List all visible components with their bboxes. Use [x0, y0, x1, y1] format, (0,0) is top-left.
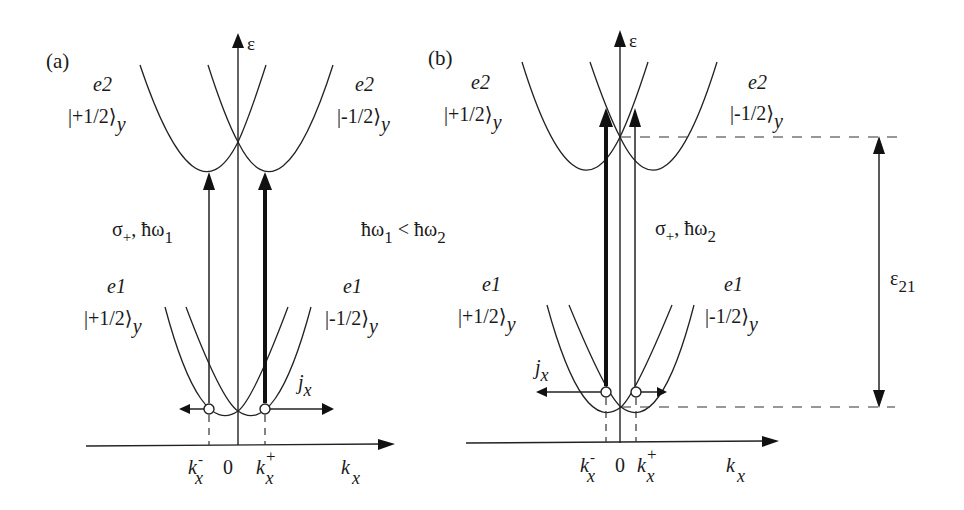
- electron-state-k-minus: [204, 404, 214, 414]
- e2-right-state-label: |-1/2⟩y: [337, 105, 390, 136]
- e2-left-state-label: |+1/2⟩y: [68, 105, 126, 136]
- panel-label-b: (b): [428, 46, 453, 70]
- e1-right-band-label: e1: [343, 275, 362, 297]
- e1-right-band-label: e1: [724, 273, 743, 295]
- current-label: jx: [295, 371, 312, 400]
- e1-left-band-label: e1: [107, 275, 126, 297]
- panel-a: (a) ε e2 |+1/2⟩y e2 |-1/2⟩y: [46, 33, 446, 488]
- k-minus-label: k-x: [580, 449, 595, 486]
- energy-axis-arrowhead-icon: [232, 33, 244, 48]
- arrowhead-right-icon: [322, 403, 334, 415]
- arrowhead-up-icon: [873, 136, 885, 154]
- energy-axis-label: ε: [247, 33, 255, 54]
- electron-state-k-plus: [631, 387, 641, 397]
- panel-b: (b) ε ε21: [428, 30, 915, 486]
- momentum-axis-arrowhead-icon: [762, 436, 779, 447]
- momentum-axis-label: kx: [341, 456, 360, 488]
- current-label: jx: [532, 356, 549, 385]
- e2-left-state-label: |+1/2⟩y: [444, 103, 502, 134]
- arrowhead-right-icon: [657, 387, 667, 397]
- arrowhead-left-icon: [536, 387, 547, 397]
- arrowhead-down-icon: [873, 390, 885, 408]
- k-plus-label: k+x: [637, 445, 656, 486]
- e1-left-state-label: |+1/2⟩y: [458, 305, 516, 336]
- e2-left-band-label: e2: [471, 71, 490, 93]
- momentum-axis-arrowhead-icon: [378, 439, 395, 450]
- panel-label-a: (a): [46, 49, 69, 73]
- arrowhead-up-icon: [203, 172, 215, 190]
- momentum-axis-label: kx: [726, 454, 745, 486]
- energy-axis-arrowhead-icon: [614, 30, 626, 47]
- gap-label: ε21: [890, 267, 915, 296]
- origin-label: 0: [223, 456, 233, 478]
- e1-right-state-label: |-1/2⟩y: [705, 305, 758, 336]
- arrowhead-up-icon: [258, 172, 272, 190]
- momentum-axis: [466, 441, 765, 443]
- e1-right-state-label: |-1/2⟩y: [325, 307, 378, 338]
- e2-parabola-minus: [208, 65, 333, 172]
- e2-parabola-minus: [590, 62, 717, 170]
- e1-left-band-label: e1: [482, 273, 501, 295]
- energy-axis-label: ε: [629, 30, 637, 51]
- e2-right-band-label: e2: [355, 73, 374, 95]
- momentum-axis: [86, 444, 380, 446]
- e2-parabola-plus: [140, 65, 266, 172]
- e2-left-band-label: e2: [93, 73, 112, 95]
- e1-left-state-label: |+1/2⟩y: [84, 307, 142, 338]
- electron-state-k-plus: [260, 404, 270, 414]
- e2-right-state-label: |-1/2⟩y: [730, 102, 783, 133]
- k-plus-label: k+x: [256, 447, 275, 488]
- e1-parabola-minus: [569, 305, 694, 413]
- excitation-label: σ+, ħω2: [655, 217, 716, 246]
- electron-state-k-minus: [601, 387, 611, 397]
- e1-parabola-minus: [186, 307, 311, 416]
- band-diagram-figure: (a) ε e2 |+1/2⟩y e2 |-1/2⟩y: [0, 0, 964, 510]
- arrowhead-left-icon: [179, 404, 190, 414]
- e1-parabola-plus: [165, 307, 288, 416]
- k-minus-label: k-x: [188, 451, 203, 488]
- photon-energy-comparison: ħω1 < ħω2: [361, 218, 446, 247]
- origin-label: 0: [615, 454, 625, 476]
- excitation-label: σ+, ħω1: [112, 218, 173, 247]
- e2-right-band-label: e2: [748, 71, 767, 93]
